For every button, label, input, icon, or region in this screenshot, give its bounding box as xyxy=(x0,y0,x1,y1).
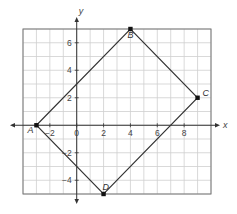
x-tick-label: 0 xyxy=(74,128,79,138)
point-a xyxy=(34,123,38,127)
point-label-a: A xyxy=(26,125,33,135)
y-tick-label: 6 xyxy=(67,38,72,48)
point-d xyxy=(101,192,105,196)
point-label-d: D xyxy=(103,182,110,192)
point-label-c: C xyxy=(203,88,210,98)
x-axis-left-arrow-icon xyxy=(10,123,15,127)
point-c xyxy=(195,96,199,100)
coordinate-plane: −202468642−2−4 ABCD x y xyxy=(0,0,237,214)
y-axis-up-arrow-icon xyxy=(75,17,79,22)
y-axis-label: y xyxy=(78,6,84,16)
x-tick-label: −2 xyxy=(45,128,55,138)
x-axis-right-arrow-icon xyxy=(215,123,220,127)
point-label-b: B xyxy=(127,30,133,40)
x-tick-label: 4 xyxy=(128,128,133,138)
y-axis-down-arrow-icon xyxy=(75,199,79,204)
y-tick-label: 4 xyxy=(67,65,72,75)
grid-lines xyxy=(23,29,211,194)
x-tick-label: 2 xyxy=(101,128,106,138)
y-tick-label: −4 xyxy=(62,175,72,185)
y-tick-label: 2 xyxy=(67,93,72,103)
x-axis-label: x xyxy=(222,120,228,130)
x-tick-label: 8 xyxy=(182,128,187,138)
